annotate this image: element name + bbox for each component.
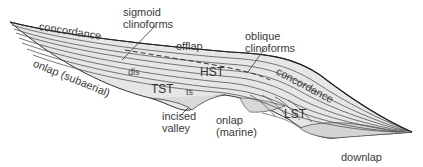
label-onlap-marine-2: (marine) [216, 126, 257, 138]
label-incised-2: valley [162, 122, 190, 134]
label-hst: HST [200, 66, 224, 78]
label-downlap: downlap [341, 151, 382, 163]
label-onlap-marine-1: onlap [216, 114, 243, 126]
label-sigmoid-1: sigmoid [123, 6, 161, 18]
label-tst: TST [151, 83, 174, 95]
label-lst: LST [284, 108, 306, 120]
sequence-stratigraphy-diagram: concordance sigmoid clinoforms offlap ob… [0, 0, 423, 167]
label-ts: ts [186, 86, 193, 98]
label-incised-1: incised [162, 110, 196, 122]
label-dls: dls [128, 66, 140, 78]
label-offlap: offlap [176, 40, 203, 52]
label-oblique-1: oblique [245, 30, 280, 42]
label-oblique-2: clinoforms [245, 42, 295, 54]
label-sigmoid-2: clinoforms [123, 18, 173, 30]
